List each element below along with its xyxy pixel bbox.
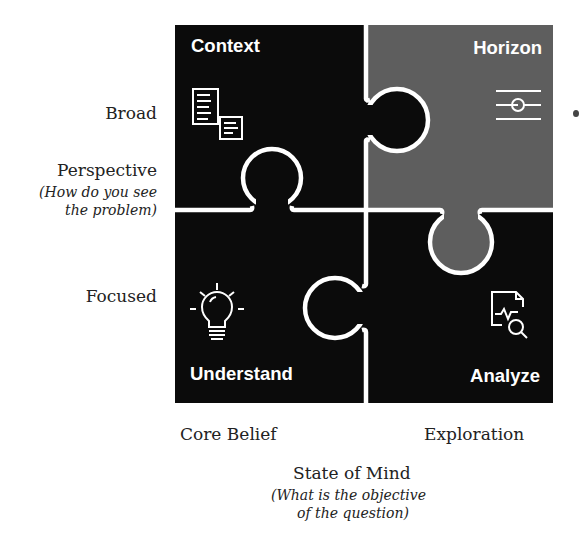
piece-title-horizon: Horizon	[473, 37, 542, 58]
puzzle-diagram: Context Horizon Understand Analyze	[0, 0, 580, 535]
label-state-of-mind: State of Mind	[293, 463, 411, 483]
knob-top-left-to-top-right	[362, 89, 428, 151]
label-focused: Focused	[86, 286, 157, 306]
label-perspective: Perspective	[57, 160, 157, 180]
label-perspective-subtitle-2: the problem)	[65, 201, 157, 219]
label-broad: Broad	[105, 103, 157, 123]
piece-title-context: Context	[191, 35, 260, 56]
edge-dot	[573, 110, 579, 117]
piece-title-understand: Understand	[190, 363, 293, 384]
label-state-of-mind-subtitle-2: of the question)	[297, 504, 409, 522]
label-core-belief: Core Belief	[180, 424, 277, 444]
label-perspective-subtitle-1: (How do you see	[39, 183, 157, 201]
label-state-of-mind-subtitle-1: (What is the objective	[271, 486, 426, 504]
label-exploration: Exploration	[424, 424, 524, 444]
piece-title-analyze: Analyze	[470, 365, 540, 386]
